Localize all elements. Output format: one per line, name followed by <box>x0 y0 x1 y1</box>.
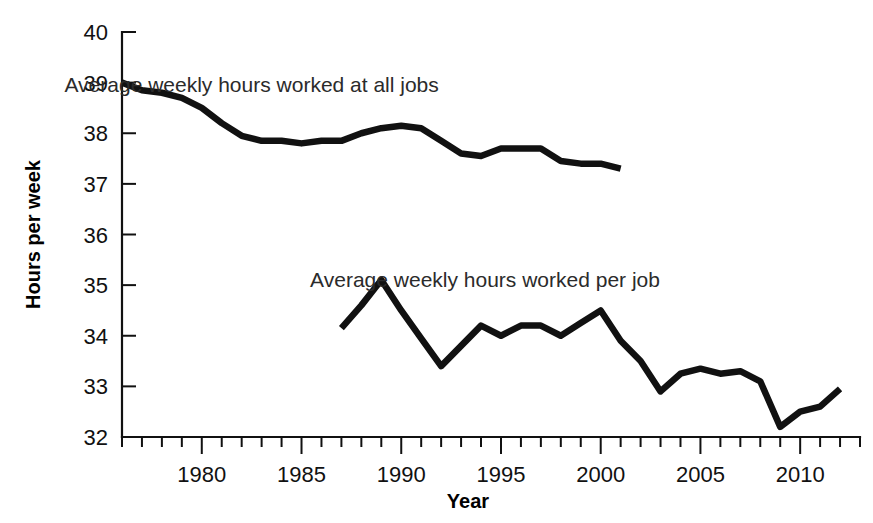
line-chart: 323334353637383940 198019851990199520002… <box>0 0 873 523</box>
x-tick-label-1990: 1990 <box>377 462 426 487</box>
x-tick-label-2010: 2010 <box>776 462 825 487</box>
x-tick-label-1985: 1985 <box>277 462 326 487</box>
y-tick-label-34: 34 <box>84 324 108 349</box>
y-tick-label-38: 38 <box>84 121 108 146</box>
chart-series-lines <box>122 83 840 427</box>
series-line-1 <box>341 280 840 427</box>
x-tick-label-2000: 2000 <box>576 462 625 487</box>
y-tick-label-33: 33 <box>84 374 108 399</box>
y-tick-label-37: 37 <box>84 172 108 197</box>
series-label-0: Average weekly hours worked at all jobs <box>64 73 438 96</box>
y-tick-label-40: 40 <box>84 20 108 45</box>
x-tick-label-2005: 2005 <box>676 462 725 487</box>
y-tick-label-35: 35 <box>84 273 108 298</box>
chart-series-annotations: Average weekly hours worked at all jobsA… <box>64 73 659 291</box>
y-tick-label-36: 36 <box>84 223 108 248</box>
series-label-1: Average weekly hours worked per job <box>310 268 660 291</box>
x-axis-tick-labels: 1980198519901995200020052010 <box>177 462 824 487</box>
y-axis-title: Hours per week <box>22 159 44 309</box>
x-tick-label-1995: 1995 <box>476 462 525 487</box>
chart-figure: 323334353637383940 198019851990199520002… <box>0 0 873 523</box>
x-tick-label-1980: 1980 <box>177 462 226 487</box>
x-axis-title: Year <box>447 490 489 512</box>
y-tick-label-32: 32 <box>84 425 108 450</box>
